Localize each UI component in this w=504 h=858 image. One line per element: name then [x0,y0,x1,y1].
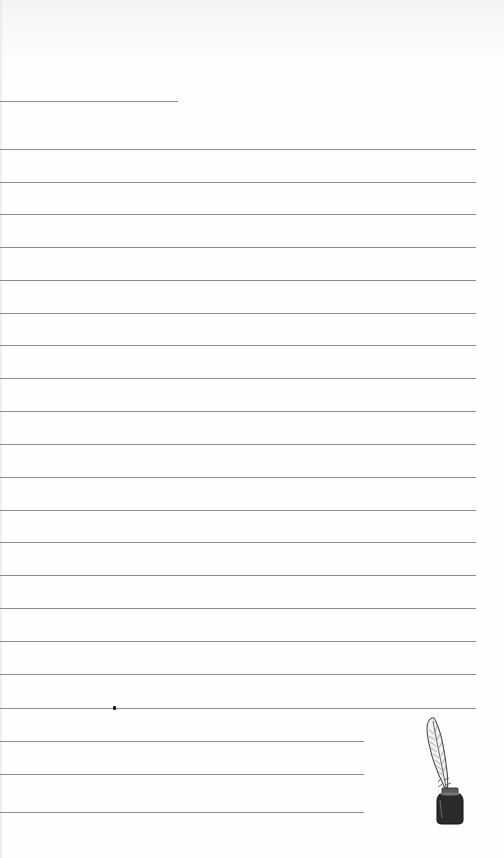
short-writing-line[interactable] [0,774,364,775]
ink-dot [113,706,116,710]
writing-line[interactable] [0,641,476,642]
writing-line[interactable] [0,575,476,576]
short-writing-line[interactable] [0,812,364,813]
lined-paper-page [0,0,504,858]
writing-line[interactable] [0,674,476,675]
inkwell-icon [437,788,463,824]
writing-line[interactable] [0,345,476,346]
writing-line[interactable] [0,708,476,709]
writing-line[interactable] [0,477,476,478]
writing-line[interactable] [0,542,476,543]
short-writing-line[interactable] [0,741,364,742]
quill-feather-icon [427,718,451,792]
writing-line[interactable] [0,378,476,379]
writing-line[interactable] [0,411,476,412]
writing-line[interactable] [0,313,476,314]
writing-line[interactable] [0,444,476,445]
writing-line[interactable] [0,280,476,281]
writing-line[interactable] [0,182,476,183]
writing-line[interactable] [0,510,476,511]
writing-line[interactable] [0,149,476,150]
writing-line[interactable] [0,608,476,609]
writing-line[interactable] [0,247,476,248]
quill-and-inkwell-icon [414,712,474,830]
header-line[interactable] [0,101,178,102]
page-left-edge [0,0,3,858]
writing-line[interactable] [0,214,476,215]
